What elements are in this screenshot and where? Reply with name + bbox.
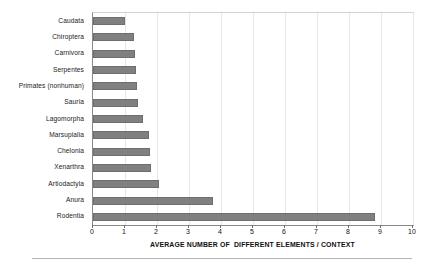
category-label-cell: Rodentia <box>0 208 88 224</box>
x-axis-title: AVERAGE NUMBER OF DIFFERENT ELEMENTS / C… <box>92 241 413 248</box>
category-label: Marsupialia <box>49 131 84 138</box>
figure-bottom-rule <box>32 258 412 259</box>
category-label: Rodentia <box>57 212 84 219</box>
gridline <box>413 13 414 225</box>
bar <box>93 131 149 139</box>
bar-row <box>93 62 413 78</box>
bar <box>93 50 135 58</box>
bar-row <box>93 192 413 208</box>
bar <box>93 148 150 156</box>
bar-row <box>93 127 413 143</box>
category-label: Sauria <box>64 98 84 105</box>
bar-row <box>93 13 413 29</box>
x-tick-label: 10 <box>408 228 416 235</box>
category-label-cell: Marsupialia <box>0 126 88 142</box>
category-label-cell: Caudata <box>0 12 88 28</box>
bar-row <box>93 160 413 176</box>
bar <box>93 33 134 41</box>
x-tick-label: 1 <box>122 228 126 235</box>
bar-row <box>93 144 413 160</box>
x-tick-label: 6 <box>282 228 286 235</box>
x-tick-label: 8 <box>346 228 350 235</box>
category-label-cell: Serpentes <box>0 61 88 77</box>
bar-series <box>93 13 413 225</box>
bar <box>93 115 143 123</box>
x-tick-label: 5 <box>250 228 254 235</box>
x-tick-label: 0 <box>90 228 94 235</box>
category-label: Anura <box>66 196 84 203</box>
category-label: Chiroptera <box>52 33 84 40</box>
bar-row <box>93 176 413 192</box>
category-label-cell: Xenarthra <box>0 159 88 175</box>
bar <box>93 197 213 205</box>
bar <box>93 66 136 74</box>
category-label-cell: Sauria <box>0 94 88 110</box>
bar <box>93 164 151 172</box>
bar <box>93 213 375 221</box>
bar-row <box>93 209 413 225</box>
x-tick-label: 3 <box>186 228 190 235</box>
category-label-cell: Chiroptera <box>0 28 88 44</box>
category-label: Xenarthra <box>54 163 84 170</box>
x-tick-label: 9 <box>378 228 382 235</box>
category-label: Serpentes <box>53 66 84 73</box>
bar-chart-figure: CaudataChiropteraCarnivoraSerpentesPrima… <box>0 0 433 266</box>
bar-row <box>93 111 413 127</box>
category-label-cell: Lagomorpha <box>0 110 88 126</box>
category-label: Primates (nonhuman) <box>19 82 84 89</box>
bar <box>93 99 138 107</box>
x-axis: 012345678910 <box>92 225 413 241</box>
category-label-cell: Carnivora <box>0 45 88 61</box>
category-label-cell: Artiodactyla <box>0 175 88 191</box>
x-tick-label: 4 <box>218 228 222 235</box>
category-label: Lagomorpha <box>46 115 84 122</box>
bar-row <box>93 46 413 62</box>
bar-row <box>93 78 413 94</box>
x-tick-label: 7 <box>314 228 318 235</box>
category-label: Artiodactyla <box>48 180 84 187</box>
category-label: Chelonia <box>57 147 84 154</box>
category-label-cell: Anura <box>0 191 88 207</box>
category-label-cell: Chelonia <box>0 143 88 159</box>
plot-area <box>92 12 414 226</box>
bar <box>93 17 125 25</box>
x-tick-label: 2 <box>154 228 158 235</box>
bar <box>93 180 159 188</box>
category-axis-labels: CaudataChiropteraCarnivoraSerpentesPrima… <box>0 12 88 224</box>
category-label: Caudata <box>58 17 84 24</box>
category-label: Carnivora <box>55 49 84 56</box>
category-label-cell: Primates (nonhuman) <box>0 77 88 93</box>
bar-row <box>93 29 413 45</box>
bar-row <box>93 95 413 111</box>
bar <box>93 82 137 90</box>
